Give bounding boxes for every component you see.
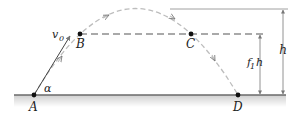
point-c-label: C	[186, 37, 195, 51]
svg-text:h: h	[256, 56, 263, 69]
trajectory-path	[34, 9, 238, 96]
h-label: h	[279, 43, 287, 57]
angle-alpha-label: α	[44, 82, 52, 95]
ground-shade	[14, 95, 286, 107]
point-c-dot	[189, 32, 194, 37]
svg-text:1: 1	[250, 62, 255, 71]
point-b-dot	[78, 32, 83, 37]
velocity-label: v 0	[52, 28, 64, 43]
svg-text:v: v	[52, 28, 59, 41]
velocity-vector-arrow	[34, 36, 70, 95]
diagram-canvas: A B C D α v 0 h f 1 h	[0, 0, 299, 120]
point-b-label: B	[75, 37, 85, 51]
f1h-label: f 1 h	[246, 56, 263, 71]
point-d-label: D	[232, 100, 243, 114]
point-d-dot	[236, 93, 241, 98]
projectile-diagram: A B C D α v 0 h f 1 h	[0, 0, 299, 120]
point-a-dot	[32, 93, 37, 98]
svg-text:0: 0	[59, 34, 64, 43]
point-a-label: A	[28, 100, 38, 114]
